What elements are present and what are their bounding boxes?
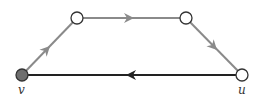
edge-b-to-u — [186, 18, 242, 75]
edge-u-to-v — [22, 70, 242, 80]
node-a — [71, 12, 83, 24]
node-v — [16, 69, 28, 81]
edge-a-to-b — [77, 13, 186, 23]
directed-graph-diagram — [0, 0, 265, 102]
edge-v-to-a — [22, 18, 77, 75]
label-v: v — [18, 84, 25, 96]
node-u — [236, 69, 248, 81]
node-b — [180, 12, 192, 24]
label-u: u — [238, 84, 246, 96]
